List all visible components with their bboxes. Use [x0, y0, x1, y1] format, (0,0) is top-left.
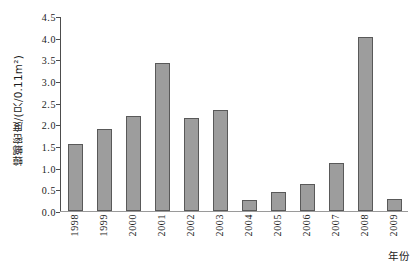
- bar-1998: [68, 144, 83, 211]
- x-axis-tick-label: 2006: [300, 214, 314, 254]
- x-axis-tick-text: 1999: [99, 214, 109, 236]
- x-axis-tick-text: 2005: [273, 214, 283, 236]
- x-axis-tick-text: 2003: [215, 214, 225, 236]
- y-axis-tick-mark: [56, 17, 60, 18]
- y-axis-tick-label: 1.5: [42, 142, 56, 153]
- x-axis-tick-label: 2000: [126, 214, 140, 254]
- x-axis-tick-label: 2001: [155, 214, 169, 254]
- x-axis-tick-label: 2005: [271, 214, 285, 254]
- y-axis-tick-label: 3.0: [42, 77, 56, 88]
- y-axis-tick-label: 2.0: [42, 120, 56, 131]
- x-axis-tick-label: 2008: [358, 214, 372, 254]
- y-axis-tick-mark: [56, 125, 60, 126]
- y-axis-tick-mark: [56, 60, 60, 61]
- x-axis-tick-text: 2001: [157, 214, 167, 236]
- x-axis-tick-label: 2004: [242, 214, 256, 254]
- x-axis-tick-text: 2006: [302, 214, 312, 236]
- y-axis-tick-label: 0.5: [42, 185, 56, 196]
- y-axis-tick-label: 0.0: [42, 207, 56, 218]
- bar-2000: [126, 116, 141, 211]
- bar-2002: [184, 118, 199, 211]
- y-axis-tick-label: 2.5: [42, 98, 56, 109]
- x-axis-tick-text: 1998: [70, 214, 80, 236]
- bar-2005: [271, 192, 286, 211]
- y-axis-tick-label: 3.5: [42, 55, 56, 66]
- x-axis-tick-text: 2000: [128, 214, 138, 236]
- bar-2009: [387, 199, 402, 211]
- x-axis-tick-text: 2004: [244, 214, 254, 236]
- y-axis-tick-mark: [56, 39, 60, 40]
- x-axis-tick-label: 2003: [213, 214, 227, 254]
- x-axis-tick-label: 1999: [97, 214, 111, 254]
- y-axis-tick-labels: 0.00.51.01.52.02.53.03.54.04.5: [26, 10, 56, 212]
- x-axis-title: 年份: [388, 248, 409, 263]
- y-axis-title-label: 蟑螂密度/(只/0.11m²): [13, 55, 24, 166]
- y-axis-tick-mark: [56, 169, 60, 170]
- plot-area: [60, 17, 408, 212]
- y-axis-tick-label: 4.0: [42, 33, 56, 44]
- y-axis-tick-mark: [56, 212, 60, 213]
- y-axis-tick-mark: [56, 190, 60, 191]
- x-axis-tick-labels: 1998199920002001200220032004200520062007…: [60, 214, 408, 254]
- bar-2006: [300, 184, 315, 211]
- y-axis-tick-mark: [56, 82, 60, 83]
- x-axis-tick-text: 2009: [389, 214, 399, 236]
- y-axis-tick-mark: [56, 104, 60, 105]
- bar-2003: [213, 110, 228, 211]
- y-axis-tick-label: 1.0: [42, 163, 56, 174]
- x-axis-tick-text: 2002: [186, 214, 196, 236]
- y-axis-tick-mark: [56, 147, 60, 148]
- bar-2004: [242, 200, 257, 211]
- x-axis-tick-label: 2007: [329, 214, 343, 254]
- y-axis-tick-label: 4.5: [42, 12, 56, 23]
- x-axis-tick-label: 1998: [68, 214, 82, 254]
- bar-2001: [155, 63, 170, 211]
- bar-chart: 蟑螂密度/(只/0.11m²) 0.00.51.01.52.02.53.03.5…: [0, 0, 417, 270]
- x-axis-line: [60, 211, 408, 212]
- bar-2008: [358, 37, 373, 211]
- bar-1999: [97, 129, 112, 211]
- x-axis-tick-text: 2008: [360, 214, 370, 236]
- y-axis-title: 蟑螂密度/(只/0.11m²): [9, 0, 27, 222]
- x-axis-tick-label: 2002: [184, 214, 198, 254]
- x-axis-tick-text: 2007: [331, 214, 341, 236]
- bars-layer: [61, 17, 408, 211]
- bar-2007: [329, 163, 344, 211]
